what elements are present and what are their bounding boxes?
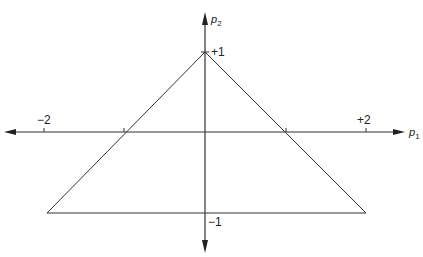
triangle-diagram: −2 +2 +1 −1 p1 p2 [0,0,423,257]
x-axis-left-arrow-icon [4,129,16,135]
y-axis-down-arrow-icon [202,240,208,253]
y-axis-up-arrow-icon [202,12,208,25]
tick-label-y-neg1: −1 [208,215,222,229]
x-axis-label: p1 [408,126,420,141]
diagram-svg: −2 +2 +1 −1 p1 p2 [0,0,423,257]
tick-label-x-pos2: +2 [357,113,371,127]
x-axis-right-arrow-icon [393,129,405,135]
tick-label-x-neg2: −2 [37,113,51,127]
y-axis-label: p2 [210,13,222,28]
tick-label-y-pos1: +1 [211,45,225,59]
